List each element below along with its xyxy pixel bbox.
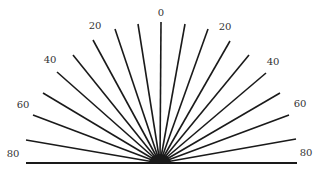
angle-label: 20 bbox=[89, 20, 102, 31]
angle-label: 20 bbox=[219, 21, 232, 32]
angle-fan-diagram: 02040608020406080 bbox=[0, 0, 318, 181]
angle-label: 0 bbox=[158, 7, 164, 18]
angle-label: 60 bbox=[294, 98, 307, 109]
angle-label: 80 bbox=[300, 147, 313, 158]
angle-label: 60 bbox=[17, 99, 30, 110]
angle-label: 40 bbox=[267, 56, 280, 67]
angle-label: 40 bbox=[44, 54, 57, 65]
ray-0 bbox=[160, 22, 161, 163]
fan-rays bbox=[0, 0, 318, 181]
angle-label: 80 bbox=[7, 148, 20, 159]
